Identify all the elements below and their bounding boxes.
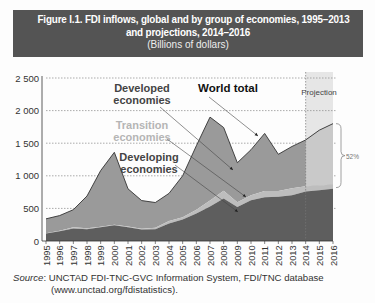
x-tick-label: 2015 [315,245,325,266]
transition-label: economies [113,131,170,143]
x-tick-label: 2002 [137,245,147,266]
x-tick-label: 1999 [96,245,106,266]
y-tick-label: 1 000 [15,170,39,181]
x-tick-label: 2006 [192,245,202,266]
x-tick-label: 1998 [83,245,93,266]
world-total-label: World total [198,82,258,94]
fdi-area-chart: 05001 0001 5002 0002 5001995199619971998… [0,0,375,272]
x-tick-label: 1995 [42,245,52,266]
y-tick-label: 1 500 [15,138,39,149]
x-tick-label: 2013 [288,245,298,266]
x-tick-label: 1997 [69,245,79,266]
x-tick-label: 2011 [260,246,270,266]
developed-label: economies [113,94,170,106]
growth-percent-label: 52% [346,153,359,160]
x-tick-label: 2008 [219,245,229,266]
source-text: : UNCTAD FDI-TNC-GVC Information System,… [43,272,323,283]
source-label: Source [13,272,43,283]
x-tick-label: 2014 [301,245,311,266]
developing-label: economies [120,163,177,175]
y-tick-label: 0 [34,236,39,247]
source-note: Source: UNCTAD FDI-TNC-GVC Information S… [13,272,373,296]
x-tick-label: 2001 [124,245,134,266]
source-url: (www.unctad.org/fdistatistics). [13,284,373,296]
developing-label: Developing [119,151,178,163]
x-tick-label: 2010 [247,245,257,266]
y-tick-label: 2 500 [15,73,39,84]
x-tick-label: 2009 [233,245,243,266]
x-tick-label: 2003 [151,245,161,266]
developed-label: Developed [114,82,170,94]
x-tick-label: 2005 [178,245,188,266]
x-tick-label: 1996 [55,245,65,266]
x-tick-label: 2012 [274,245,284,266]
y-tick-label: 500 [23,203,39,214]
projection-label: Projection [301,88,337,97]
x-tick-label: 2004 [165,245,175,266]
x-tick-label: 2007 [206,245,216,266]
y-tick-label: 2 000 [15,105,39,116]
x-tick-label: 2000 [110,245,120,266]
x-tick-label: 2016 [329,245,339,266]
transition-label: Transition [116,119,169,131]
